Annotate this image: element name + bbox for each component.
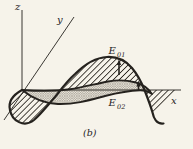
svg-text:E: E [108, 97, 117, 108]
svg-text:02: 02 [117, 103, 125, 111]
x-axis-label: x [171, 95, 177, 106]
svg-text:01: 01 [117, 51, 125, 59]
wave-components-figure: z y x E 01 E 02 (b) [0, 0, 193, 149]
y-axis-label: y [56, 14, 63, 25]
figure-caption: (b) [83, 127, 97, 138]
z-axis-label: z [14, 1, 21, 12]
figure-canvas: z y x E 01 E 02 (b) [0, 0, 193, 149]
svg-text:E: E [108, 45, 117, 56]
